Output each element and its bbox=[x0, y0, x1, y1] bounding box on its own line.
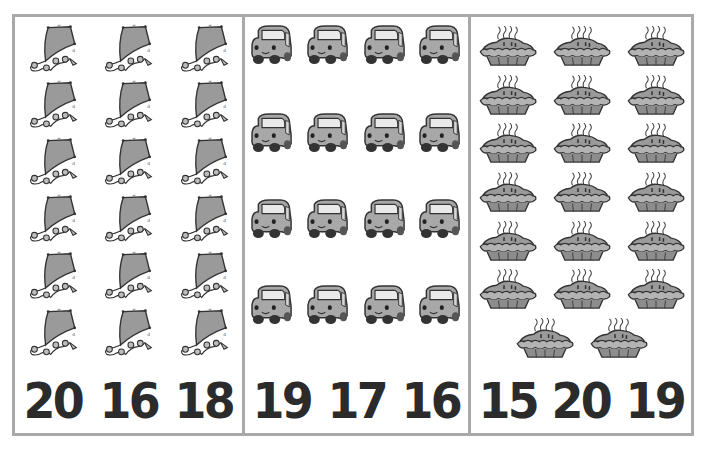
kite-icon bbox=[25, 79, 85, 131]
answer-choice[interactable]: 15 bbox=[478, 373, 537, 429]
answer-choices-pies: 15 20 19 bbox=[471, 373, 691, 429]
car-icon bbox=[249, 199, 295, 239]
answer-choice[interactable]: 20 bbox=[24, 373, 83, 429]
kite-icon bbox=[100, 193, 160, 245]
pie-icon bbox=[627, 123, 685, 163]
answer-choice[interactable]: 20 bbox=[552, 373, 611, 429]
panel-cars: 19 17 16 bbox=[242, 17, 468, 433]
car-icon bbox=[249, 113, 295, 153]
car-icon bbox=[305, 113, 351, 153]
pie-icon bbox=[627, 172, 685, 212]
kite-icon bbox=[100, 79, 160, 131]
car-icon bbox=[305, 285, 351, 325]
pie-icon bbox=[553, 269, 611, 309]
car-icon bbox=[417, 285, 463, 325]
worksheet-frame: 20 16 18 19 17 16 bbox=[12, 14, 694, 436]
kite-icon bbox=[100, 250, 160, 302]
answer-choices-kites: 20 16 18 bbox=[15, 373, 242, 429]
car-icon bbox=[362, 199, 408, 239]
kite-icon bbox=[100, 23, 160, 75]
pie-icon bbox=[627, 269, 685, 309]
kite-icon bbox=[176, 136, 236, 188]
pie-icon bbox=[479, 75, 537, 115]
car-icon bbox=[305, 25, 351, 65]
pie-icon bbox=[479, 269, 537, 309]
pie-icon bbox=[479, 172, 537, 212]
pie-icon bbox=[627, 221, 685, 261]
pie-icon bbox=[553, 123, 611, 163]
pie-icon bbox=[553, 221, 611, 261]
answer-choice[interactable]: 17 bbox=[327, 373, 386, 429]
car-icon bbox=[362, 25, 408, 65]
pie-icon bbox=[553, 75, 611, 115]
pie-icon bbox=[627, 26, 685, 66]
answer-choice[interactable]: 19 bbox=[253, 373, 312, 429]
car-icon bbox=[249, 285, 295, 325]
kite-icon bbox=[25, 250, 85, 302]
kite-icon bbox=[25, 23, 85, 75]
kite-icon bbox=[176, 193, 236, 245]
pie-icon bbox=[479, 26, 537, 66]
panel-pies: 15 20 19 bbox=[468, 17, 691, 433]
answer-choice[interactable]: 16 bbox=[402, 373, 461, 429]
pie-icon bbox=[553, 26, 611, 66]
kite-icon bbox=[25, 193, 85, 245]
kite-icon bbox=[176, 250, 236, 302]
kite-icon bbox=[176, 79, 236, 131]
answer-choice[interactable]: 16 bbox=[99, 373, 158, 429]
car-icon bbox=[249, 25, 295, 65]
panel-kites: 20 16 18 bbox=[15, 17, 242, 433]
kite-icon bbox=[25, 307, 85, 359]
car-icon bbox=[417, 199, 463, 239]
kite-icon bbox=[25, 136, 85, 188]
pie-icon bbox=[627, 75, 685, 115]
pie-icon bbox=[553, 172, 611, 212]
answer-choices-cars: 19 17 16 bbox=[245, 373, 468, 429]
kite-icon bbox=[176, 307, 236, 359]
car-icon bbox=[417, 113, 463, 153]
answer-choice[interactable]: 18 bbox=[175, 373, 234, 429]
kite-icon bbox=[100, 136, 160, 188]
car-icon bbox=[305, 199, 351, 239]
kite-icon bbox=[100, 307, 160, 359]
car-icon bbox=[417, 25, 463, 65]
car-icon bbox=[362, 285, 408, 325]
car-icon bbox=[362, 113, 408, 153]
pie-icon bbox=[516, 318, 574, 358]
pie-icon bbox=[479, 221, 537, 261]
answer-choice[interactable]: 19 bbox=[625, 373, 684, 429]
kite-icon bbox=[176, 23, 236, 75]
pie-icon bbox=[590, 318, 648, 358]
pie-icon bbox=[479, 123, 537, 163]
